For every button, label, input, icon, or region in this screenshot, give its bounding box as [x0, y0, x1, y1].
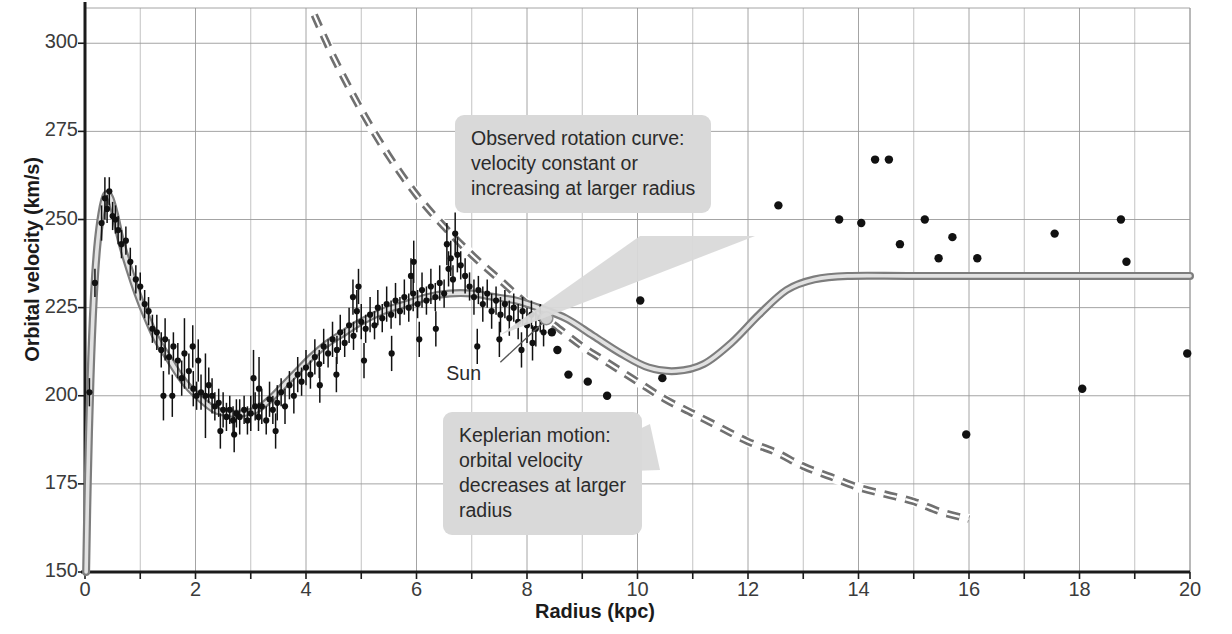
- data-point: [511, 305, 517, 311]
- data-point: [1183, 349, 1191, 357]
- data-point: [564, 370, 572, 378]
- data-point: [450, 276, 456, 282]
- data-point: [973, 254, 981, 262]
- data-point: [244, 417, 250, 423]
- data-point: [202, 393, 208, 399]
- data-point: [162, 336, 168, 342]
- sun-label: Sun: [446, 362, 481, 385]
- data-point: [428, 283, 434, 289]
- data-point: [363, 326, 369, 332]
- data-point: [160, 393, 166, 399]
- data-point: [553, 346, 561, 354]
- data-point: [401, 294, 407, 300]
- data-point: [857, 219, 865, 227]
- data-point: [433, 326, 439, 332]
- data-point: [466, 283, 472, 289]
- data-point: [1050, 229, 1058, 237]
- data-point: [312, 354, 318, 360]
- data-point: [273, 428, 279, 434]
- data-point: [384, 301, 390, 307]
- data-point: [480, 301, 486, 307]
- data-point: [388, 312, 394, 318]
- data-point: [263, 417, 269, 423]
- data-point: [584, 377, 592, 385]
- data-point: [170, 343, 176, 349]
- data-point: [1122, 258, 1130, 266]
- data-point: [603, 392, 611, 400]
- data-point: [548, 328, 556, 336]
- data-point: [256, 386, 262, 392]
- data-point: [274, 400, 280, 406]
- data-point: [1117, 215, 1125, 223]
- data-point: [223, 414, 229, 420]
- data-point: [286, 382, 292, 388]
- data-point: [329, 336, 335, 342]
- data-point: [317, 382, 323, 388]
- data-point: [295, 372, 301, 378]
- data-point: [166, 354, 172, 360]
- data-point: [237, 414, 243, 420]
- data-point: [502, 301, 508, 307]
- data-point: [658, 374, 666, 382]
- data-point: [282, 403, 288, 409]
- data-point: [432, 294, 438, 300]
- data-point: [452, 231, 458, 237]
- data-point: [475, 287, 481, 293]
- callout-keplerian-motion: Keplerian motion: orbital velocity decre…: [443, 412, 642, 535]
- data-point: [948, 233, 956, 241]
- data-point: [458, 262, 464, 268]
- data-point: [206, 382, 212, 388]
- data-point: [489, 308, 495, 314]
- data-point: [540, 329, 546, 335]
- data-point: [190, 343, 196, 349]
- data-point: [220, 407, 226, 413]
- data-point: [415, 301, 421, 307]
- data-point: [835, 215, 843, 223]
- data-point: [419, 287, 425, 293]
- data-point: [321, 343, 327, 349]
- data-point: [358, 319, 364, 325]
- data-point: [921, 215, 929, 223]
- data-point: [92, 280, 98, 286]
- data-point: [474, 343, 480, 349]
- data-point: [230, 417, 236, 423]
- data-point: [506, 315, 512, 321]
- data-point: [266, 396, 272, 402]
- data-point: [115, 227, 121, 233]
- data-point: [104, 206, 110, 212]
- plot-area: [0, 0, 1232, 634]
- data-point: [325, 350, 331, 356]
- data-point: [350, 333, 356, 339]
- data-point: [354, 308, 360, 314]
- data-point: [371, 322, 377, 328]
- data-point: [484, 290, 490, 296]
- y-axis-title: Orbital velocity (km/s): [21, 90, 44, 430]
- data-point: [885, 155, 893, 163]
- data-point: [241, 407, 247, 413]
- data-point: [127, 259, 133, 265]
- data-point: [471, 294, 477, 300]
- data-point: [154, 329, 160, 335]
- data-point: [137, 283, 143, 289]
- data-point: [437, 280, 443, 286]
- data-point: [423, 297, 429, 303]
- data-point: [397, 308, 403, 314]
- data-point: [337, 329, 343, 335]
- data-point: [962, 430, 970, 438]
- data-point: [497, 312, 503, 318]
- data-point: [307, 372, 313, 378]
- data-point: [158, 347, 164, 353]
- data-point: [350, 294, 356, 300]
- data-point: [346, 322, 352, 328]
- data-point: [186, 368, 192, 374]
- data-point: [123, 238, 129, 244]
- rotation-curve-figure: 150175200225250275300 02468101214161820 …: [0, 0, 1232, 634]
- data-point: [493, 297, 499, 303]
- data-point: [441, 290, 447, 296]
- data-point: [291, 393, 297, 399]
- data-point: [216, 400, 222, 406]
- data-point: [217, 428, 223, 434]
- callout-observed-rotation-curve: Observed rotation curve: velocity consta…: [455, 115, 711, 213]
- data-point: [334, 347, 340, 353]
- data-point: [195, 357, 201, 363]
